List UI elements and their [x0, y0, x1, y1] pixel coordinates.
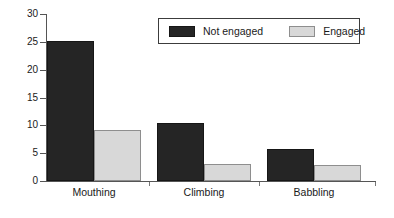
- bar-mouthing-not-engaged: [47, 41, 94, 181]
- y-axis-tick-label: 0: [4, 176, 38, 186]
- y-axis-tick: [40, 98, 46, 99]
- y-axis-tick: [40, 14, 46, 15]
- chart-legend: Not engaged Engaged: [158, 18, 360, 44]
- y-axis-tick-label: 30: [4, 9, 38, 19]
- y-axis-tick-label: 15: [4, 93, 38, 103]
- bar-climbing-engaged: [204, 164, 251, 181]
- y-axis-tick: [40, 42, 46, 43]
- x-axis-label-mouthing: Mouthing: [37, 186, 151, 199]
- legend-light-swatch-icon: [289, 26, 315, 37]
- y-axis-tick: [40, 125, 46, 126]
- y-axis-tick-label: 10: [4, 120, 38, 130]
- legend-item-not-engaged: Not engaged: [169, 26, 263, 37]
- x-axis-end-tick: [375, 182, 376, 186]
- x-axis-label-climbing: Climbing: [147, 186, 261, 199]
- bar-chart: 051015202530 MouthingClimbingBabbling No…: [0, 0, 394, 218]
- legend-dark-swatch-icon: [169, 26, 195, 37]
- legend-label-engaged: Engaged: [323, 26, 365, 37]
- y-axis-tick-label: 20: [4, 65, 38, 75]
- bar-babbling-not-engaged: [267, 149, 314, 181]
- y-axis-tick: [40, 153, 46, 154]
- y-axis-tick: [40, 181, 46, 182]
- y-axis-tick-label: 5: [4, 148, 38, 158]
- y-axis-tick-label: 25: [4, 37, 38, 47]
- y-axis-tick: [40, 70, 46, 71]
- x-axis-label-babbling: Babbling: [257, 186, 371, 199]
- bar-babbling-engaged: [314, 165, 361, 181]
- x-axis-line: [46, 181, 376, 182]
- bar-climbing-not-engaged: [157, 123, 204, 181]
- legend-label-not-engaged: Not engaged: [203, 26, 263, 37]
- legend-item-engaged: Engaged: [289, 26, 365, 37]
- bar-mouthing-engaged: [94, 130, 141, 181]
